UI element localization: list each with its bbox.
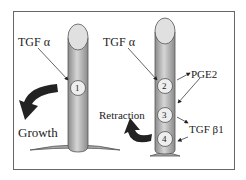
pge2-in-arrow <box>178 78 200 103</box>
label-pge2: PGE2 <box>191 69 217 80</box>
node-1-label: 1 <box>75 84 80 93</box>
label-tgfa-left: TGF α <box>18 36 50 48</box>
diagram-graphics <box>0 0 246 180</box>
label-tgfb1: TGF β1 <box>189 124 224 135</box>
diagram-root: TGF α 1 Growth TGF α 2 3 4 PGE2 TGF β1 R… <box>0 0 246 180</box>
label-growth: Growth <box>18 126 58 139</box>
node-2-label: 2 <box>162 82 167 91</box>
label-tgfa-right: TGF α <box>103 36 135 48</box>
node-4-label: 4 <box>162 135 167 144</box>
tgfb1-in-arrow <box>178 137 188 141</box>
tgfb1-out-arrow <box>177 117 188 123</box>
right-tip <box>155 18 175 44</box>
node-3-label: 3 <box>162 111 167 120</box>
left-tip <box>68 24 88 50</box>
pge2-out-arrow <box>177 73 190 80</box>
label-retraction: Retraction <box>99 110 145 121</box>
retraction-arrow-icon <box>124 118 152 142</box>
tgfa-arrow-left <box>38 48 68 80</box>
growth-arrow-icon <box>19 84 58 120</box>
tgfa-arrow-right <box>128 48 157 80</box>
